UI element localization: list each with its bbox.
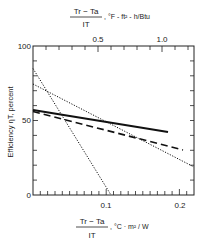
efficiency-chart: Tr − Ta IT , °F - ft² - h/Btu 0.5 1.0 10…: [0, 0, 199, 246]
top-axis-numerator: Tr − Ta: [74, 7, 99, 16]
plot-frame: [33, 46, 194, 195]
series-dotted-steep: [33, 69, 111, 196]
ticks: [33, 46, 194, 195]
x-tick-0.2: 0.2: [174, 201, 186, 210]
y-axis-label: Efficiency ηT, percent: [6, 86, 15, 158]
y-tick-100: 100: [18, 42, 32, 51]
bottom-axis-numerator: Tr − Ta: [80, 217, 105, 226]
y-tick-50: 50: [22, 116, 31, 125]
top-axis-denominator: IT: [82, 20, 89, 29]
x-tick-0.1: 0.1: [100, 201, 112, 210]
y-tick-0: 0: [27, 191, 32, 200]
x2-tick-0.5: 0.5: [92, 35, 104, 44]
x2-tick-1.0: 1.0: [156, 35, 168, 44]
series-dotted-shallow: [33, 84, 194, 167]
bottom-axis-denominator: IT: [88, 231, 95, 240]
top-axis-unit: , °F - ft² - h/Btu: [104, 13, 150, 20]
bottom-axis-unit: , °C · m² / W: [110, 223, 149, 230]
